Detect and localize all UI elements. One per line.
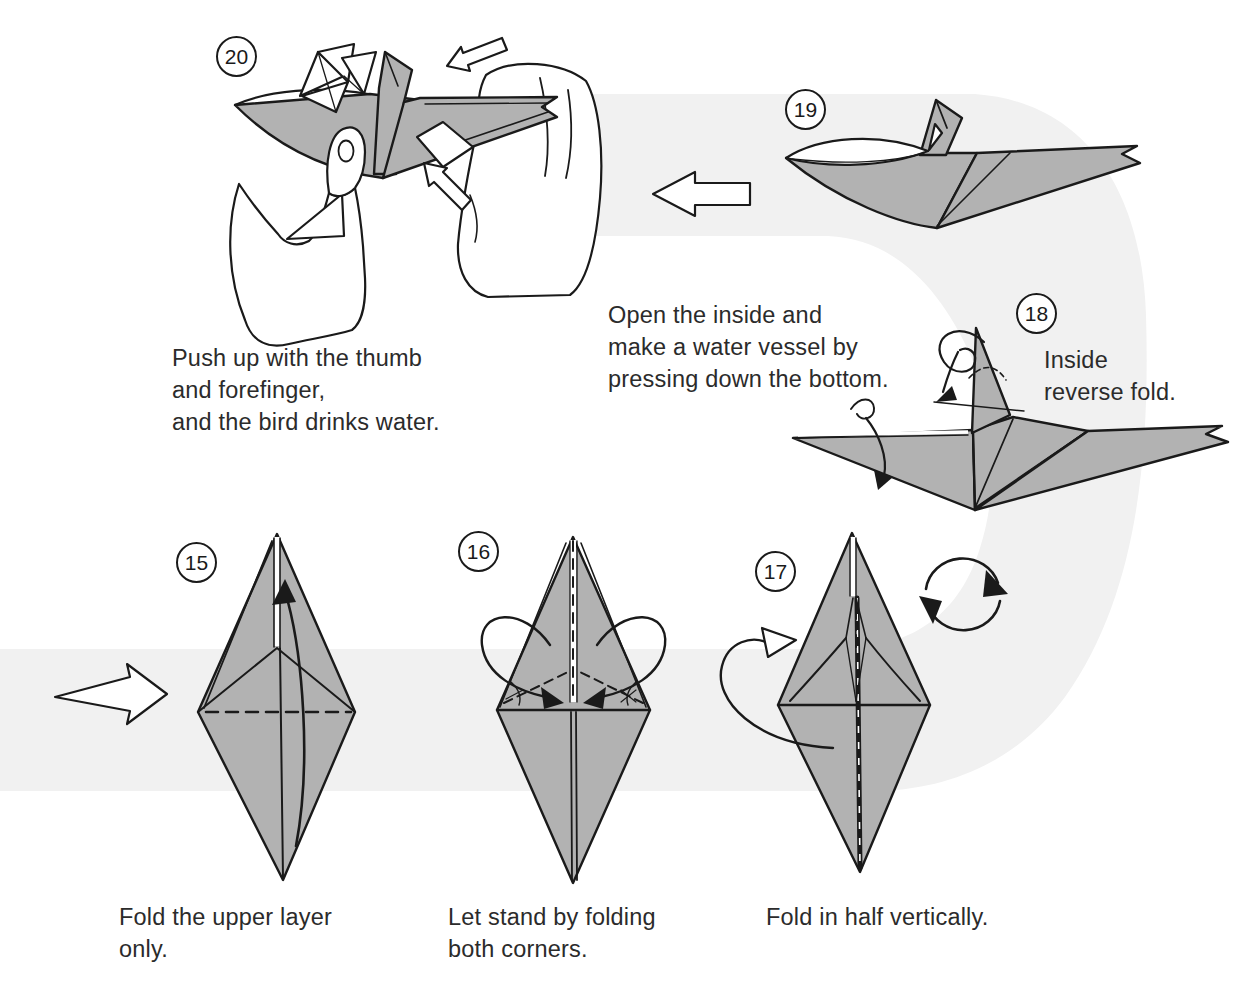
- step-16-badge: 16: [458, 531, 499, 572]
- step-19-badge: 19: [785, 89, 826, 130]
- step-19-number: 19: [794, 98, 817, 122]
- origami-instruction-page: 20 19 18 15 16 17 Push up with the thumb…: [0, 0, 1246, 983]
- step-17-caption: Fold in half vertically.: [766, 901, 988, 933]
- step-18-number: 18: [1025, 302, 1048, 326]
- push-arrow-icon: [447, 38, 507, 71]
- step-15-caption: Fold the upper layer only.: [119, 901, 332, 965]
- index-finger: [287, 194, 344, 239]
- step-15-number: 15: [185, 551, 208, 575]
- wing-layer-edge: [425, 103, 548, 104]
- step-16-caption: Let stand by folding both corners.: [448, 901, 656, 965]
- step-18-label: Inside reverse fold.: [1044, 344, 1176, 408]
- step-18-note: Open the inside and make a water vessel …: [608, 299, 889, 395]
- push-up-arrow-icon: [424, 163, 471, 210]
- step-20-number: 20: [225, 45, 248, 69]
- step-18-badge: 18: [1016, 293, 1057, 334]
- diagram-canvas: [0, 0, 1246, 983]
- center-crease-line: [576, 712, 577, 880]
- step-17-badge: 17: [755, 551, 796, 592]
- step-16-number: 16: [467, 540, 490, 564]
- step-16-diagram: [482, 537, 665, 883]
- step-15-badge: 15: [176, 542, 217, 583]
- step-20-caption: Push up with the thumb and forefinger, a…: [172, 342, 440, 438]
- step-20-diagram: [230, 38, 601, 346]
- step-20-badge: 20: [216, 36, 257, 77]
- left-hand: [230, 127, 365, 345]
- step-17-number: 17: [764, 560, 787, 584]
- center-crease-line: [571, 712, 572, 880]
